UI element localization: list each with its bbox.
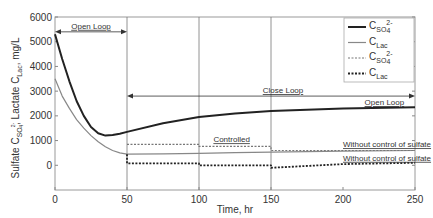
y-tick-label: 6000: [30, 12, 53, 23]
x-tick-label: 200: [335, 194, 352, 205]
x-tick-label: 150: [263, 194, 280, 205]
x-tick-label: 0: [52, 194, 58, 205]
y-tick-label: 0: [46, 160, 52, 171]
annotation-label: Without control of sulfate: [343, 140, 432, 149]
y-tick-label: 2000: [30, 110, 53, 121]
annotation-label: Controlled: [213, 135, 249, 144]
annotation-label: Open Loop: [71, 22, 111, 31]
x-tick-label: 50: [121, 194, 133, 205]
y-tick-label: 3000: [30, 86, 53, 97]
chart: 0501001502002506000500040003000200010000…: [0, 0, 433, 218]
y-tick-label: 5000: [30, 36, 53, 47]
y-tick-label: 4000: [30, 61, 53, 72]
annotation-label: Open Loop: [365, 98, 405, 107]
y-axis-title: Sulfate CSO2-4, Lactate CLac, mg/L: [10, 37, 24, 178]
y-tick-label: 1000: [30, 135, 53, 146]
x-tick-label: 100: [191, 194, 208, 205]
annotation-label: Close Loop: [263, 86, 304, 95]
annotation-label: Without control of sulfate: [343, 154, 432, 163]
x-tick-label: 250: [407, 194, 424, 205]
x-axis-title: Time, hr: [217, 204, 254, 215]
legend: CSO2-4CLacCSO2-4CLac: [344, 18, 414, 82]
